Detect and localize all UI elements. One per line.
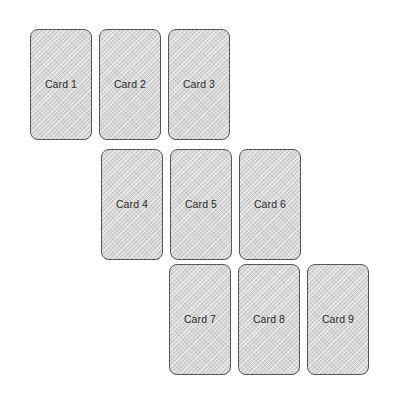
card-4[interactable]: Card 4 bbox=[101, 149, 163, 260]
card-3-label: Card 3 bbox=[183, 79, 215, 90]
card-row-3: Card 7 Card 8 Card 9 bbox=[169, 264, 369, 375]
card-8-label: Card 8 bbox=[253, 314, 285, 325]
card-1[interactable]: Card 1 bbox=[30, 29, 92, 140]
card-board: Card 1 Card 2 Card 3 Card 4 Card 5 Card … bbox=[0, 0, 400, 406]
card-6-label: Card 6 bbox=[254, 199, 286, 210]
card-7-label: Card 7 bbox=[184, 314, 216, 325]
card-8[interactable]: Card 8 bbox=[238, 264, 300, 375]
card-3[interactable]: Card 3 bbox=[168, 29, 230, 140]
card-5[interactable]: Card 5 bbox=[170, 149, 232, 260]
card-6[interactable]: Card 6 bbox=[239, 149, 301, 260]
card-row-2: Card 4 Card 5 Card 6 bbox=[101, 149, 301, 260]
card-1-label: Card 1 bbox=[45, 79, 77, 90]
card-2-label: Card 2 bbox=[114, 79, 146, 90]
card-7[interactable]: Card 7 bbox=[169, 264, 231, 375]
card-row-1: Card 1 Card 2 Card 3 bbox=[30, 29, 230, 140]
card-2[interactable]: Card 2 bbox=[99, 29, 161, 140]
card-9[interactable]: Card 9 bbox=[307, 264, 369, 375]
card-5-label: Card 5 bbox=[185, 199, 217, 210]
card-9-label: Card 9 bbox=[322, 314, 354, 325]
card-4-label: Card 4 bbox=[116, 199, 148, 210]
